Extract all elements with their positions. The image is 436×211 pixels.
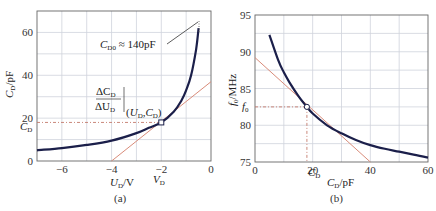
chart-b-frequency-curve [269, 35, 428, 158]
chart-b-cd-axis-marker: CD [308, 166, 320, 180]
chart-b-y-ticks: 7580859095 [240, 9, 252, 168]
chart-a-frame [37, 11, 211, 161]
chart-b-x-axis-label: CD/pF [327, 176, 354, 190]
y-tick-label: 80 [240, 119, 252, 131]
chart-b-caption: (b) [330, 192, 343, 205]
chart-b-grid [255, 15, 428, 162]
chart-a-operating-point [159, 120, 164, 125]
chart-a-caption: (a) [114, 192, 127, 205]
x-tick-label: 40 [365, 164, 377, 176]
chart-a-y-axis-label: CD/pF [3, 71, 17, 98]
chart-b: 7580859095 0204060 f0 CD CD/pF f0/MHz (b… [226, 9, 434, 205]
x-tick-label: 60 [423, 164, 435, 176]
chart-a-vd-axis-marker: VD [153, 173, 165, 187]
chart-a-grid [37, 11, 211, 161]
chart-b-x-ticks: 0204060 [252, 164, 434, 176]
chart-a-derivative-denominator: ΔUD [95, 100, 115, 114]
y-tick-label: 40 [22, 69, 34, 81]
x-tick-label: 0 [252, 164, 258, 176]
chart-a-x-ticks: −6−4−20 [56, 163, 214, 175]
x-tick-label: −4 [106, 163, 118, 175]
chart-a-evaluation-point: (UD,CD) [126, 106, 162, 120]
chart-a-derivative-numerator: ΔCD [96, 85, 115, 99]
chart-a-y-ticks: 0204060 [22, 26, 34, 167]
chart-b-operating-point [304, 104, 309, 109]
chart-a: 0204060 −6−4−20 CD0 ≈ 140pF ΔCD ΔUD (UD,… [3, 11, 214, 205]
chart-a-c0-annotation: CD0 ≈ 140pF [100, 38, 156, 52]
chart-a-c0-leader-line [167, 22, 198, 44]
chart-b-y-axis-label: f0/MHz [226, 74, 240, 106]
y-tick-label: 90 [240, 46, 252, 58]
figure: 0204060 −6−4−20 CD0 ≈ 140pF ΔCD ΔUD (UD,… [0, 0, 436, 211]
y-tick-label: 75 [240, 156, 252, 168]
y-tick-label: 85 [240, 83, 252, 95]
y-tick-label: 60 [22, 26, 34, 38]
y-tick-label: 0 [28, 155, 34, 167]
chart-a-x-axis-label: UD/V [110, 176, 134, 190]
y-tick-label: 95 [240, 9, 252, 21]
chart-b-f0-axis-marker: f0 [242, 100, 249, 114]
x-tick-label: −6 [56, 163, 68, 175]
x-tick-label: 0 [208, 163, 214, 175]
